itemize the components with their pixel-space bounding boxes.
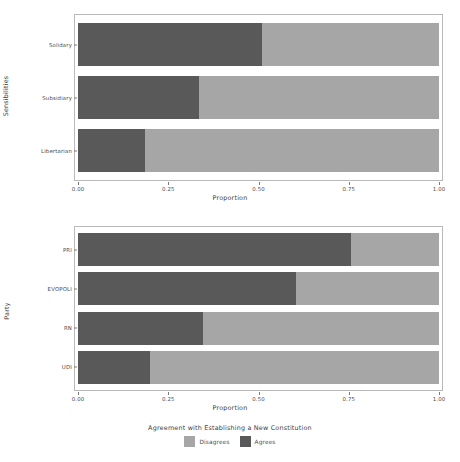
- x-tick-label: 0.50: [252, 396, 265, 402]
- y-tick: [74, 249, 77, 250]
- axis-title-x: Proportion: [0, 194, 460, 202]
- bar-segment-agrees: [78, 76, 199, 119]
- x-tick-label: 0.00: [72, 396, 85, 402]
- bar-row: [78, 272, 439, 305]
- bar-row: [78, 351, 439, 384]
- x-tick: [349, 392, 350, 395]
- y-tick-label: EVOPOLI: [48, 286, 72, 292]
- bar-segment-disagrees: [203, 312, 439, 345]
- x-tick: [349, 182, 350, 185]
- y-tick-label: Libertarian: [41, 148, 72, 154]
- legend-item-agrees[interactable]: Agrees: [240, 436, 276, 447]
- bar-segment-disagrees: [296, 272, 439, 305]
- x-tick: [439, 392, 440, 395]
- legend-item-disagrees[interactable]: Disagrees: [184, 436, 229, 447]
- y-tick: [74, 97, 77, 98]
- bar-segment-disagrees: [262, 23, 439, 66]
- bar-segment-disagrees: [150, 351, 439, 384]
- bar-segment-agrees: [78, 23, 262, 66]
- legend-title: Agreement with Establishing a New Consti…: [0, 424, 460, 432]
- panel-party: Party PRIEVOPOLIRNUDI0.000.250.500.751.0…: [0, 222, 460, 422]
- bar-row: [78, 23, 439, 66]
- bar-segment-agrees: [78, 351, 150, 384]
- bar-segment-agrees: [78, 233, 351, 266]
- y-tick: [74, 328, 77, 329]
- y-tick: [74, 288, 77, 289]
- x-tick-label: 0.25: [162, 186, 175, 192]
- bar-row: [78, 312, 439, 345]
- bars-area-bottom: [78, 230, 439, 387]
- bar-segment-agrees: [78, 272, 296, 305]
- bar-row: [78, 76, 439, 119]
- figure: Sensibilities SolidarySubsidiaryLibertar…: [0, 0, 460, 462]
- panel-sensibilities: Sensibilities SolidarySubsidiaryLibertar…: [0, 0, 460, 215]
- x-tick-label: 0.25: [162, 396, 175, 402]
- legend-swatch: [184, 436, 195, 447]
- bar-row: [78, 233, 439, 266]
- axis-title-y-top: Sensibilities: [2, 66, 10, 126]
- x-tick-label: 0.00: [72, 186, 85, 192]
- y-tick: [74, 150, 77, 151]
- x-tick: [168, 182, 169, 185]
- bars-area-top: [78, 18, 439, 177]
- y-tick-label: PRI: [63, 247, 72, 253]
- x-tick: [259, 392, 260, 395]
- bar-row: [78, 129, 439, 172]
- x-tick: [168, 392, 169, 395]
- bar-segment-disagrees: [145, 129, 439, 172]
- x-tick: [78, 392, 79, 395]
- legend: Agreement with Establishing a New Consti…: [0, 424, 460, 447]
- bar-segment-agrees: [78, 312, 203, 345]
- x-tick-label: 1.00: [433, 186, 446, 192]
- x-tick-label: 0.75: [342, 396, 355, 402]
- x-tick-label: 0.50: [252, 186, 265, 192]
- axis-title-y-bottom: Party: [3, 288, 11, 334]
- y-tick: [74, 44, 77, 45]
- x-tick: [78, 182, 79, 185]
- y-tick: [74, 367, 77, 368]
- x-tick: [439, 182, 440, 185]
- bar-segment-agrees: [78, 129, 145, 172]
- x-tick-label: 0.75: [342, 186, 355, 192]
- legend-label: Agrees: [255, 439, 276, 445]
- legend-swatch: [240, 436, 251, 447]
- legend-items: DisagreesAgrees: [0, 436, 460, 447]
- x-tick: [259, 182, 260, 185]
- axis-title-x: Proportion: [0, 404, 460, 412]
- y-tick-label: Subsidiary: [42, 95, 72, 101]
- y-tick-label: UDI: [62, 364, 72, 370]
- legend-label: Disagrees: [199, 439, 229, 445]
- y-tick-label: Solidary: [49, 42, 72, 48]
- y-tick-label: RN: [64, 325, 72, 331]
- x-tick-label: 1.00: [433, 396, 446, 402]
- bar-segment-disagrees: [199, 76, 439, 119]
- bar-segment-disagrees: [351, 233, 439, 266]
